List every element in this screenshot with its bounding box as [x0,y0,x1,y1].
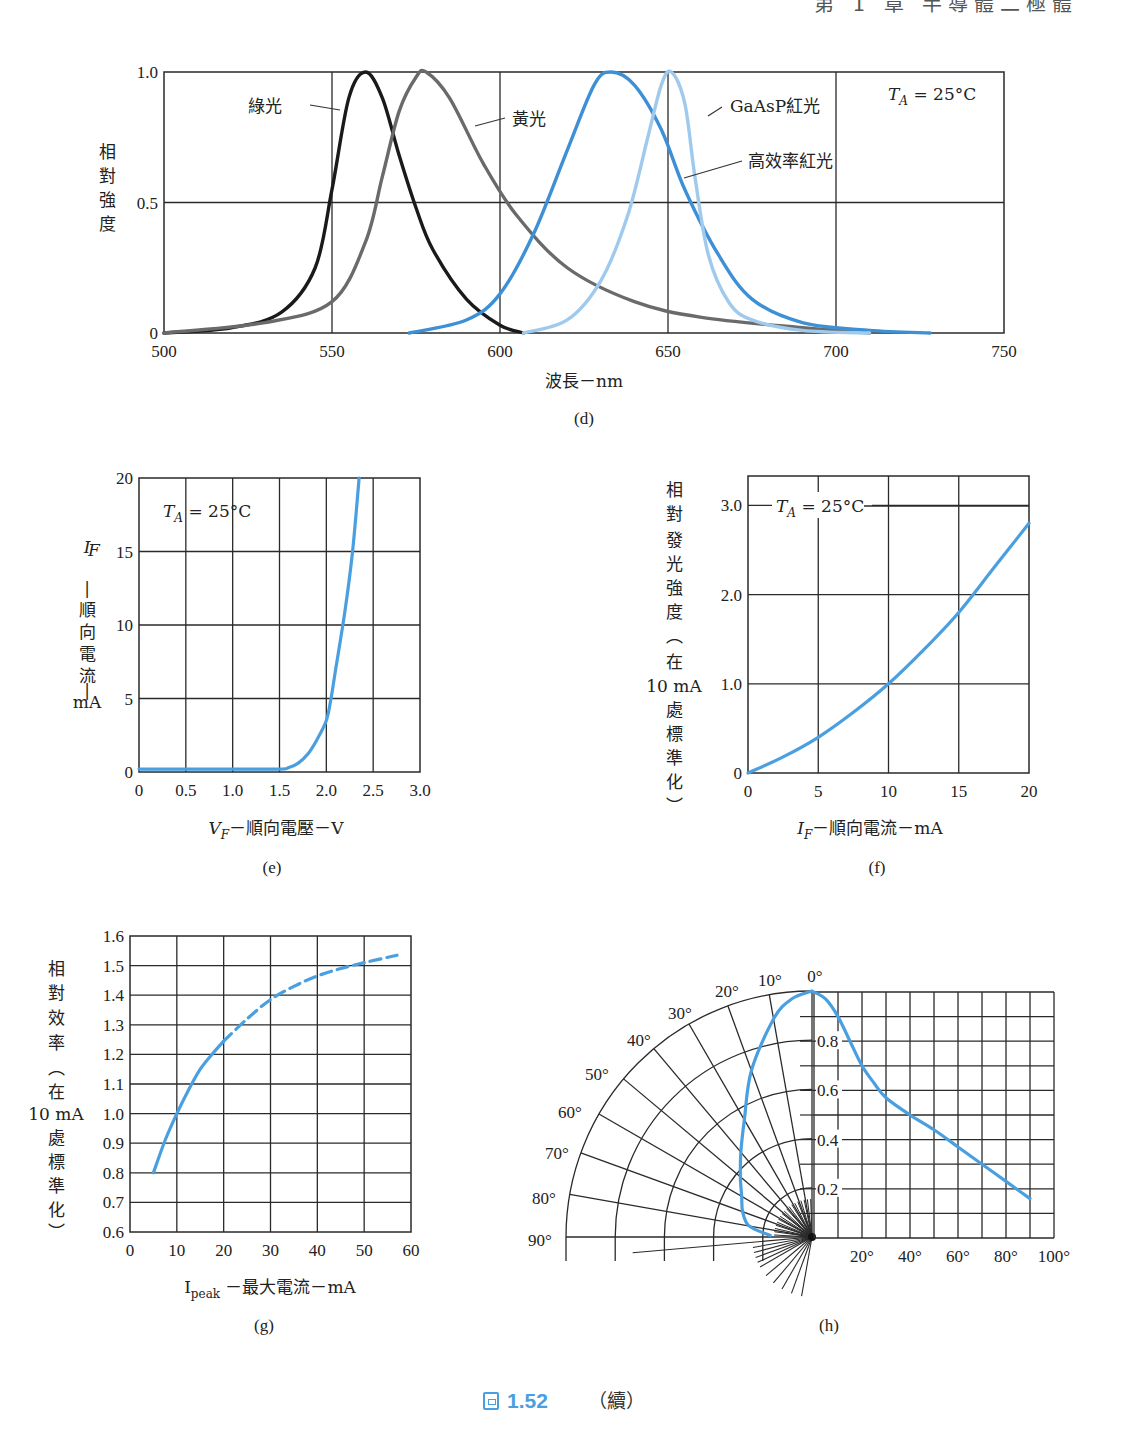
y-tick-label: 1.2 [103,1045,124,1064]
chart-caption-h: (h) [819,1316,839,1335]
y-axis-label: ︵ [48,1058,65,1078]
x-tick-label: 20 [1021,782,1038,801]
x-tick-label: 1.0 [222,781,243,800]
y-axis-label: 強 [99,190,116,210]
chart-h: 0°10°20°30°40°50°60°70°80°90°0.20.40.60.… [528,967,1070,1335]
y-axis-label: 率 [48,1033,65,1053]
series-line [153,1041,223,1173]
figure-canvas: 50055060065070075000.51.0綠光黃光GaAsP紅光高效率紅… [0,0,1128,1451]
y-axis-label: ︶ [666,796,683,816]
y-axis-label: 相 [99,142,116,162]
x-tick-label: 60° [946,1247,970,1266]
polar-angle-label: 50° [585,1065,609,1084]
x-tick-label: 2.0 [316,781,337,800]
y-axis-label: 標 [48,1152,65,1172]
y-axis-label: 向 [79,622,96,642]
y-axis-label: 化 [48,1200,65,1220]
polar-angle-label: 40° [627,1031,651,1050]
x-axis-label: 波長－nm [545,371,623,391]
x-tick-label: 100° [1038,1247,1070,1266]
y-axis-label: 電 [79,644,96,664]
y-axis-label: 準 [666,748,683,768]
polar-curve [740,991,812,1236]
x-tick-label: 20° [850,1247,874,1266]
y-tick-label: 1.0 [721,675,742,694]
y-tick-label: 0.5 [137,194,158,213]
label-yellow: 黃光 [512,109,546,129]
y-tick-label: 0 [734,764,743,783]
series-line [814,992,1030,1199]
polar-angle-label: 0° [807,967,822,986]
y-tick-label: 10 [116,616,133,635]
y-tick-label: 0.6 [817,1081,838,1100]
x-tick-label: 0.5 [175,781,196,800]
x-tick-label: 0 [744,782,753,801]
figure-continued: （續） [588,1390,645,1412]
x-tick-label: 10 [168,1241,185,1260]
y-tick-label: 0 [125,763,134,782]
y-axis-label: 對 [666,504,683,524]
svg-text:TA = 25°C: TA = 25°C [163,501,251,525]
label-gaasp-red: GaAsP紅光 [730,96,820,116]
y-axis-label: ︵ [666,626,683,646]
y-tick-label: 1.3 [103,1016,124,1035]
y-tick-label: 1.0 [137,63,158,82]
y-axis-label: 10 mA [28,1104,84,1124]
y-tick-label: 0.8 [817,1032,838,1051]
x-tick-label: 30 [262,1241,279,1260]
x-tick-label: 2.5 [363,781,384,800]
x-tick-label: 10 [880,782,897,801]
y-axis-label: 光 [666,554,683,574]
y-axis-label: 順 [79,600,96,620]
y-tick-label: 5 [125,690,134,709]
y-axis-label: 相 [666,480,683,500]
x-tick-label: 40 [309,1241,326,1260]
polar-arc [566,991,812,1261]
y-axis-label: 相 [48,959,65,979]
y-tick-label: 0.8 [103,1164,124,1183]
y-tick-label: 0.7 [103,1193,125,1212]
y-axis-label: mA [73,692,102,712]
label-high-efficiency-red: 高效率紅光 [748,151,833,171]
chart-f: 0510152001.02.03.0TA = 25°C相對發光強度︵在10 mA… [646,476,1037,877]
y-tick-label: 0.2 [817,1180,838,1199]
x-tick-label: 3.0 [409,781,430,800]
y-tick-label: 1.6 [103,927,124,946]
x-tick-label: 700 [823,342,849,361]
polar-angle-label: 60° [558,1103,582,1122]
x-tick-label: 0 [126,1241,135,1260]
x-tick-label: 1.5 [269,781,290,800]
y-axis-label: 發 [666,530,683,550]
x-tick-label: 5 [814,782,823,801]
y-axis-label: 在 [48,1082,65,1102]
y-axis-label: 準 [48,1176,65,1196]
y-axis-label: 對 [99,166,116,186]
y-tick-label: 1.5 [103,957,124,976]
x-tick-label: 50 [356,1241,373,1260]
y-tick-label: 20 [116,469,133,488]
y-axis-label: ︶ [48,1222,65,1242]
y-axis-label: 處 [48,1128,65,1148]
series-line [224,955,397,1041]
chart-caption-g: (g) [254,1316,274,1335]
x-tick-label: 500 [151,342,177,361]
polar-angle-label: 30° [668,1004,692,1023]
y-axis-label: 強 [666,578,683,598]
y-axis-label: 在 [666,652,683,672]
chart-caption-f: (f) [869,858,886,877]
y-tick-label: 1.4 [103,986,125,1005]
y-axis-label: 度 [99,214,116,234]
y-tick-label: 0.6 [103,1223,124,1242]
x-tick-label: 650 [655,342,681,361]
x-tick-label: 15 [950,782,967,801]
figure-number: 1.52 [507,1389,548,1412]
figure-icon [483,1392,499,1410]
y-tick-label: 0.4 [817,1131,839,1150]
chart-d: 50055060065070075000.51.0綠光黃光GaAsP紅光高效率紅… [99,63,1017,428]
chart-caption-d: (d) [574,409,594,428]
x-axis-label: Ipeak －最大電流－mA [184,1277,356,1301]
x-tick-label: 40° [898,1247,922,1266]
y-tick-label: 1.1 [103,1075,124,1094]
y-tick-label: 15 [116,543,133,562]
y-tick-label: 0 [150,324,159,343]
